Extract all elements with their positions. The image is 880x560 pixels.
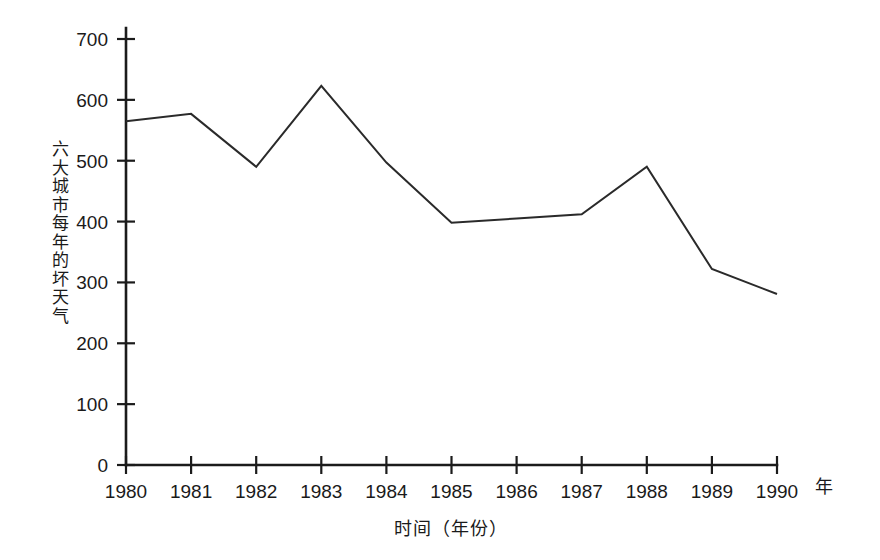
x-axis-tick-label: 1985 xyxy=(430,481,472,502)
x-axis-unit-label: 年 xyxy=(815,476,833,497)
y-axis-tick-label: 500 xyxy=(76,151,108,172)
y-axis-tick-label: 600 xyxy=(76,90,108,111)
x-axis-tick-label: 1990 xyxy=(756,481,798,502)
x-axis-tick-label: 1988 xyxy=(626,481,668,502)
x-axis-tick-label: 1980 xyxy=(105,481,147,502)
y-axis-tick-label: 400 xyxy=(76,212,108,233)
x-axis-tick-label: 1987 xyxy=(561,481,603,502)
x-axis-title: 时间（年份） xyxy=(394,518,508,539)
x-axis-tick-label: 1989 xyxy=(691,481,733,502)
y-axis-tick-label: 300 xyxy=(76,272,108,293)
x-axis-tick-label: 1981 xyxy=(170,481,212,502)
x-axis-tick-group: 1980198119821983198419851986198719881989… xyxy=(105,456,798,502)
x-axis-tick-label: 1984 xyxy=(365,481,408,502)
x-axis-tick-label: 1986 xyxy=(495,481,537,502)
data-series-line xyxy=(126,86,777,294)
y-axis-title: 六大城市每年的坏天气 xyxy=(42,140,68,325)
line-chart: 六大城市每年的坏天气 0100200300400500600700 198019… xyxy=(0,0,880,560)
chart-canvas: 0100200300400500600700 19801981198219831… xyxy=(0,0,880,560)
x-axis-tick-label: 1982 xyxy=(235,481,277,502)
y-axis-tick-label: 0 xyxy=(97,455,108,476)
y-axis-tick-label: 200 xyxy=(76,333,108,354)
x-axis-tick-label: 1983 xyxy=(300,481,342,502)
y-axis-tick-label: 100 xyxy=(76,394,108,415)
y-axis-tick-label: 700 xyxy=(76,29,108,50)
